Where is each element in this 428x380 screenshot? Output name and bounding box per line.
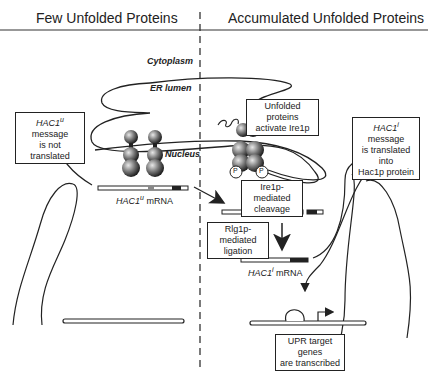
mrna-suffix: mRNA <box>276 268 303 278</box>
gene-superscript: u <box>60 116 64 123</box>
gene-name: HAC1 <box>373 123 397 133</box>
ire1-monomer-left-1 <box>122 130 140 177</box>
unfolded-activate-box: Unfolded proteins activate Ire1p <box>246 99 319 136</box>
gene-name: HAC1 <box>248 268 272 278</box>
hac1i-translated-box: HAC1i message is translated into Hac1p p… <box>352 117 420 180</box>
left-membrane <box>13 183 77 325</box>
left-condition-title: Few Unfolded Proteins <box>36 10 178 26</box>
hac1u-mrna-bar <box>98 186 188 190</box>
box-line2: ligation <box>224 246 253 256</box>
box-line1: Rlg1p-mediated <box>219 224 256 245</box>
box-line1: message <box>32 129 69 139</box>
hac1u-not-translated-box: HAC1u message is not translated <box>15 112 85 164</box>
right-membrane-inner <box>341 174 354 336</box>
cleavage-arrow <box>194 187 222 202</box>
box-line3: Hac1p protein <box>358 167 414 177</box>
right-membrane-outer <box>366 180 411 338</box>
cytoplasm-label: Cytoplasm <box>147 56 193 66</box>
unfolded-protein-icon <box>218 119 238 127</box>
mrna-suffix: mRNA <box>146 196 173 206</box>
box-line2: activate Ire1p <box>255 123 309 133</box>
box-line1: UPR target genes <box>288 336 333 357</box>
gene-superscript: i <box>272 266 274 273</box>
ire1-monomer-left-2 <box>146 130 164 177</box>
promoter-arrow-icon <box>318 312 332 321</box>
phospho-label-left: P <box>233 167 238 174</box>
ligation-box: Rlg1p-mediated ligation <box>207 222 269 259</box>
nucleus-label: Nucleus <box>165 149 200 159</box>
upr-transcribed-box: UPR target genes are transcribed <box>275 334 345 371</box>
right-dna-bar <box>250 321 366 325</box>
box-line2: are transcribed <box>280 358 340 368</box>
box-line1: message <box>368 134 405 144</box>
transcription-arrow <box>305 167 372 290</box>
gene-name: HAC1 <box>116 196 140 206</box>
exon2-fragment <box>307 210 323 214</box>
box-line2: is translated into <box>362 145 411 166</box>
gene-name: HAC1 <box>36 118 60 128</box>
cleavage-box: Ire1p-mediated cleavage <box>241 180 303 217</box>
hac1u-mrna-label: HAC1u mRNA <box>116 194 173 206</box>
left-dna-bar <box>63 319 184 323</box>
box-line1: Unfolded proteins <box>264 101 300 122</box>
gene-superscript: u <box>140 194 144 201</box>
box-line1: Ire1p-mediated <box>253 182 290 203</box>
phospho-label-right: P <box>259 167 264 174</box>
hac1i-mrna-label: HAC1i mRNA <box>248 266 303 278</box>
diagram-canvas <box>0 0 428 380</box>
box-line2: is not translated <box>30 140 70 161</box>
er-lumen-label: ER lumen <box>150 83 192 93</box>
box-line2: cleavage <box>254 204 290 214</box>
gene-superscript: i <box>397 121 399 128</box>
transcription-bubble <box>286 310 305 321</box>
right-condition-title: Accumulated Unfolded Proteins <box>228 10 424 26</box>
